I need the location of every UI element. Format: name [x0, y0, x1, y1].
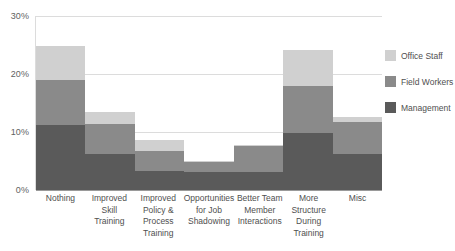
bar-stack[interactable] [36, 46, 85, 190]
y-axis-tick-label: 0% [16, 185, 29, 195]
bar-segment[interactable] [283, 133, 332, 190]
bar-stack[interactable] [234, 145, 283, 190]
bar-column[interactable] [234, 16, 283, 190]
y-axis-tick-label: 20% [11, 69, 29, 79]
bar-series-group [36, 16, 382, 190]
bar-column[interactable] [85, 16, 134, 190]
legend-item-label: Field Workers [401, 77, 453, 87]
legend-item[interactable]: Office Staff [385, 45, 455, 66]
bar-column[interactable] [184, 16, 233, 190]
x-axis-category-label: Nothing [36, 193, 85, 239]
bar-segment[interactable] [135, 140, 184, 152]
bar-segment[interactable] [85, 124, 134, 154]
bar-stack[interactable] [135, 140, 184, 190]
y-axis: 0%10%20%30% [0, 0, 34, 251]
bar-segment[interactable] [36, 80, 85, 125]
bar-stack[interactable] [333, 117, 382, 190]
bar-column[interactable] [333, 16, 382, 190]
bar-column[interactable] [283, 16, 332, 190]
legend-swatch-icon [385, 76, 396, 87]
legend: Office StaffField WorkersManagement [385, 45, 455, 123]
bar-segment[interactable] [135, 151, 184, 171]
legend-swatch-icon [385, 102, 396, 113]
bar-segment[interactable] [283, 50, 332, 86]
bar-segment[interactable] [85, 112, 134, 124]
x-axis-category-label: Opportunitiesfor JobShadowing [183, 193, 236, 239]
bar-segment[interactable] [234, 146, 283, 172]
bar-segment[interactable] [333, 154, 382, 190]
bar-stack[interactable] [85, 112, 134, 190]
bar-segment[interactable] [283, 86, 332, 133]
stacked-bar-chart: 0%10%20%30% NothingImproved SkillTrainin… [0, 0, 455, 251]
y-axis-tick-label: 30% [11, 11, 29, 21]
bar-column[interactable] [135, 16, 184, 190]
bar-segment[interactable] [184, 162, 233, 172]
legend-item[interactable]: Field Workers [385, 71, 455, 92]
x-axis-category-label: Misc [333, 193, 382, 239]
bar-segment[interactable] [333, 122, 382, 154]
x-axis-line [36, 190, 382, 191]
bar-segment[interactable] [85, 154, 134, 190]
x-axis-category-label: Better TeamMemberInteractions [235, 193, 284, 239]
legend-item-label: Management [401, 103, 451, 113]
bar-segment[interactable] [234, 172, 283, 190]
x-axis-category-label: ImprovedPolicy &ProcessTraining [134, 193, 183, 239]
x-axis-labels: NothingImproved SkillTrainingImprovedPol… [36, 193, 382, 239]
x-axis-category-label: More StructureDuring Training [284, 193, 333, 239]
bar-segment[interactable] [135, 171, 184, 190]
legend-swatch-icon [385, 50, 396, 61]
legend-item[interactable]: Management [385, 97, 455, 118]
bar-segment[interactable] [36, 125, 85, 190]
bar-segment[interactable] [36, 46, 85, 80]
bar-segment[interactable] [184, 172, 233, 190]
y-axis-tick-label: 10% [11, 127, 29, 137]
plot-area [36, 16, 382, 190]
bar-stack[interactable] [184, 161, 233, 190]
bar-stack[interactable] [283, 50, 332, 190]
x-axis-category-label: Improved SkillTraining [85, 193, 134, 239]
legend-item-label: Office Staff [401, 51, 443, 61]
bar-column[interactable] [36, 16, 85, 190]
